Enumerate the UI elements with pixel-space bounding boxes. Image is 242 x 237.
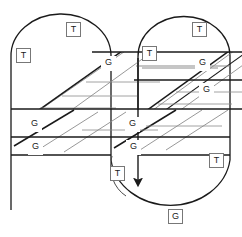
label-t-4: T xyxy=(142,46,157,61)
label-g-2: G xyxy=(195,56,210,71)
label-g-5: G xyxy=(125,117,140,132)
lower-hatch-band xyxy=(14,110,228,152)
right-dome-outline xyxy=(138,16,230,157)
label-g-3: G xyxy=(199,83,214,98)
label-t-6: T xyxy=(110,166,125,181)
label-g-7: G xyxy=(126,140,141,155)
label-t-1: T xyxy=(66,22,81,37)
label-g-8: G xyxy=(168,209,183,224)
left-dome-outline xyxy=(11,14,111,210)
label-g-4: G xyxy=(27,117,42,132)
label-g-1: G xyxy=(101,56,116,71)
diagram-root: T T T T G G G G G G G T T G xyxy=(0,0,242,237)
label-t-2: T xyxy=(16,48,31,63)
label-t-3: T xyxy=(192,22,207,37)
label-g-6: G xyxy=(28,140,43,155)
label-t-5: T xyxy=(209,153,224,168)
